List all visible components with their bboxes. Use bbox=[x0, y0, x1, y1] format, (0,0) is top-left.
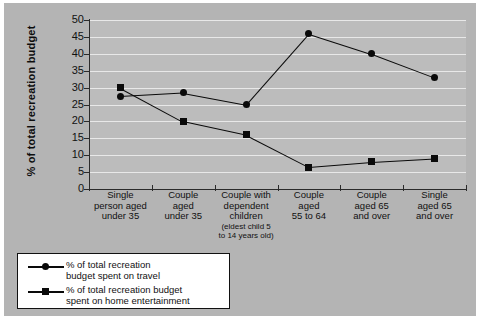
y-axis-tick-mark bbox=[84, 138, 89, 139]
plot-area bbox=[89, 20, 466, 189]
gridline bbox=[89, 105, 466, 106]
x-axis-tick-mark bbox=[215, 185, 216, 191]
y-axis-tick-label: 5 bbox=[60, 166, 84, 177]
gridline bbox=[89, 37, 466, 38]
legend-entry-label-line: % of total recreation budget bbox=[66, 284, 190, 295]
y-axis-tick-label: 0 bbox=[60, 183, 84, 194]
y-axis-tick-label: 30 bbox=[60, 82, 84, 93]
y-axis-tick-label: 15 bbox=[60, 132, 84, 143]
x-axis-category-label-line: Couple bbox=[152, 190, 215, 201]
y-axis-tick-label: 10 bbox=[60, 149, 84, 160]
data-point-marker bbox=[368, 158, 375, 165]
legend-entry-label-line: % of total recreation bbox=[66, 259, 160, 270]
data-point-marker bbox=[243, 101, 250, 108]
x-axis-category: Singleperson agedunder 35 bbox=[89, 190, 152, 222]
gridline bbox=[89, 88, 466, 89]
y-axis-tick-label: 25 bbox=[60, 99, 84, 110]
x-axis-category: Singleaged 65and over bbox=[403, 190, 466, 222]
legend-entry-label: % of total recreationbudget spent on tra… bbox=[66, 259, 160, 281]
x-axis-category: Couple withdependentchildren(eldest chil… bbox=[215, 190, 278, 240]
legend-square-marker-icon bbox=[26, 286, 66, 298]
legend-circle-marker-icon bbox=[26, 261, 66, 273]
data-point-marker bbox=[180, 89, 187, 96]
x-axis-tick-mark bbox=[89, 185, 90, 191]
legend-entry: % of total recreationbudget spent on tra… bbox=[26, 259, 160, 281]
chart-legend: % of total recreationbudget spent on tra… bbox=[17, 253, 230, 309]
gridline bbox=[89, 20, 466, 21]
y-axis-tick-label: 50 bbox=[60, 14, 84, 25]
chart-figure: % of total recreation budget 50454035302… bbox=[0, 0, 480, 320]
x-axis-category: Coupleaged55 to 64 bbox=[278, 190, 341, 222]
x-axis-tick-mark bbox=[152, 185, 153, 191]
x-axis-tick-mark bbox=[278, 185, 279, 191]
gridline bbox=[89, 138, 466, 139]
x-axis-category-label-line: Single bbox=[89, 190, 152, 201]
x-axis-category-label-line: under 35 bbox=[152, 211, 215, 222]
x-axis-tick-mark bbox=[403, 185, 404, 191]
y-axis-tick-mark bbox=[84, 155, 89, 156]
x-axis-category-label-line: under 35 bbox=[89, 211, 152, 222]
data-point-marker bbox=[117, 93, 124, 100]
y-axis-tick-mark bbox=[84, 172, 89, 173]
x-axis-category-label-line: Couple bbox=[340, 190, 403, 201]
data-point-marker bbox=[243, 131, 250, 138]
y-axis-tick-label: 40 bbox=[60, 48, 84, 59]
y-axis-tick-label: 45 bbox=[60, 31, 84, 42]
x-axis-category-label-line: and over bbox=[403, 211, 466, 222]
x-axis-tick-mark bbox=[340, 185, 341, 191]
x-axis-category-label-line: and over bbox=[340, 211, 403, 222]
y-axis-tick-mark bbox=[84, 20, 89, 21]
data-point-marker bbox=[180, 118, 187, 125]
y-axis-title: % of total recreation budget bbox=[25, 11, 37, 191]
legend-entry-label-line: budget spent on travel bbox=[66, 270, 160, 281]
data-point-marker bbox=[431, 74, 438, 81]
y-axis-tick-mark bbox=[84, 54, 89, 55]
chart-panel: % of total recreation budget 50454035302… bbox=[4, 3, 476, 316]
data-point-marker bbox=[431, 155, 438, 162]
gridline bbox=[89, 54, 466, 55]
x-axis-category-sublabel-line: to 14 years old) bbox=[215, 231, 278, 240]
y-axis-ticks: 50454035302520151050 bbox=[58, 3, 84, 203]
x-axis-category-label-line: 55 to 64 bbox=[278, 211, 341, 222]
gridline bbox=[89, 172, 466, 173]
legend-entry: % of total recreation budgetspent on hom… bbox=[26, 284, 190, 306]
y-axis-tick-mark bbox=[84, 71, 89, 72]
x-axis-category-label-line: Couple bbox=[278, 190, 341, 201]
legend-entry-label-line: spent on home entertainment bbox=[66, 295, 190, 306]
x-axis-category-label-line: Couple with bbox=[215, 190, 278, 201]
y-axis-line bbox=[89, 19, 90, 190]
gridline bbox=[89, 121, 466, 122]
x-axis-category-label-line: Single bbox=[403, 190, 466, 201]
x-axis-category-label-line: children bbox=[215, 211, 278, 222]
y-axis-tick-mark bbox=[84, 88, 89, 89]
y-axis-tick-mark bbox=[84, 37, 89, 38]
y-axis-tick-label: 20 bbox=[60, 115, 84, 126]
x-axis-category: Coupleagedunder 35 bbox=[152, 190, 215, 222]
x-axis-category-sublabel-line: (eldest child 5 bbox=[215, 222, 278, 231]
legend-entry-label: % of total recreation budgetspent on hom… bbox=[66, 284, 190, 306]
x-axis-categories: Singleperson agedunder 35Coupleagedunder… bbox=[89, 190, 466, 252]
gridline bbox=[89, 155, 466, 156]
y-axis-tick-mark bbox=[84, 121, 89, 122]
y-axis-tick-label: 35 bbox=[60, 65, 84, 76]
data-point-marker bbox=[305, 164, 312, 171]
y-axis-tick-mark bbox=[84, 105, 89, 106]
x-axis-category: Coupleaged 65and over bbox=[340, 190, 403, 222]
data-point-marker bbox=[117, 84, 124, 91]
x-axis-tick-mark bbox=[466, 185, 467, 191]
